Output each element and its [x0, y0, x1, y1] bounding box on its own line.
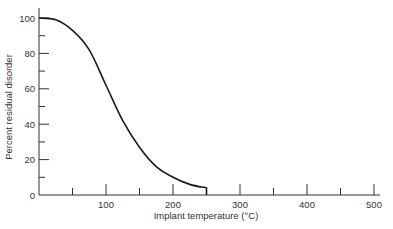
y-tick-label: 60: [24, 83, 35, 94]
x-tick-label: 200: [165, 199, 181, 210]
data-curve: [39, 18, 207, 195]
x-tick-label: 100: [98, 199, 114, 210]
chart: 020406080100 100200300400500 Implant tem…: [0, 0, 393, 229]
x-axis-title: Implant temperature (°C): [154, 210, 259, 221]
y-tick-label: 100: [19, 13, 35, 24]
y-axis: 020406080100: [19, 8, 49, 201]
y-tick-label: 0: [30, 190, 35, 201]
x-tick-label: 400: [299, 199, 315, 210]
y-tick-label: 20: [24, 154, 35, 165]
x-tick-label: 500: [366, 199, 382, 210]
x-axis: 100200300400500: [39, 184, 382, 210]
y-tick-label: 40: [24, 119, 35, 130]
y-axis-title: Percent residual disorder: [3, 54, 14, 160]
x-tick-label: 300: [232, 199, 248, 210]
y-tick-label: 80: [24, 48, 35, 59]
